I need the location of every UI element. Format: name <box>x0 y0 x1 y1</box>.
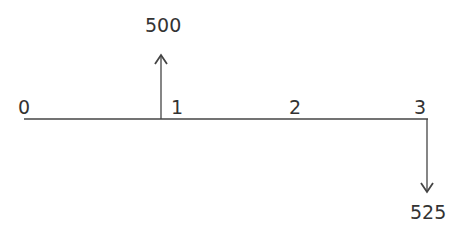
period-label-1: 1 <box>171 98 183 117</box>
inflow-amount: 500 <box>145 16 181 35</box>
outflow-amount: 525 <box>410 203 446 222</box>
timeline-diagram <box>0 0 468 233</box>
period-label-0: 0 <box>18 98 30 117</box>
period-label-3: 3 <box>414 98 426 117</box>
inflow-arrow <box>155 55 167 119</box>
period-label-2: 2 <box>289 98 301 117</box>
outflow-arrow <box>421 119 433 192</box>
